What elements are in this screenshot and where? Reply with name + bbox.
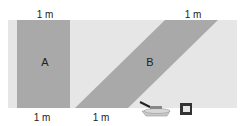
bottom-left-dimension: 1 m (34, 112, 51, 123)
shape-b-label: B (146, 56, 153, 68)
bottom-middle-dimension: 1 m (93, 112, 110, 123)
paint-can-icon (180, 103, 192, 115)
shape-a-label: A (41, 56, 49, 68)
diagram-canvas: A B 1 m 1 m 1 m 1 m (0, 0, 245, 126)
top-left-dimension: 1 m (37, 9, 54, 20)
top-right-dimension: 1 m (185, 9, 202, 20)
